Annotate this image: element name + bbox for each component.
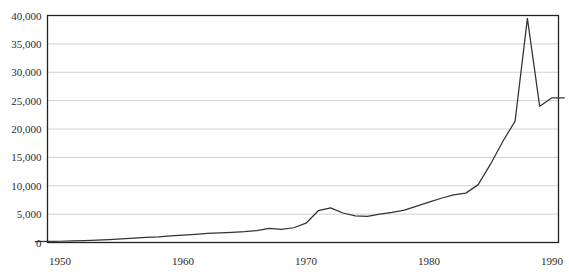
y-axis-tick-label: 15,000 — [11, 152, 41, 163]
y-axis-tick-label: 40,000 — [11, 10, 41, 21]
x-axis-tick-label: 1980 — [418, 256, 440, 267]
line-chart: 05,00010,00015,00020,00025,00030,00035,0… — [0, 0, 569, 275]
x-axis-tick-label: 1960 — [172, 256, 194, 267]
y-axis-tick-label: 5,000 — [17, 209, 42, 220]
y-axis-tick-label: 0 — [36, 237, 42, 248]
y-axis-tick-label: 35,000 — [11, 38, 41, 49]
y-axis-tick-label: 20,000 — [11, 124, 41, 135]
x-axis-tick-label: 1970 — [295, 256, 317, 267]
chart-plot-area — [0, 0, 569, 275]
x-axis-tick-label: 1950 — [49, 256, 71, 267]
y-axis-tick-label: 30,000 — [11, 67, 41, 78]
y-axis-tick-label: 25,000 — [11, 95, 41, 106]
y-axis-tick-label: 10,000 — [11, 180, 41, 191]
x-axis-tick-label: 1990 — [541, 256, 563, 267]
